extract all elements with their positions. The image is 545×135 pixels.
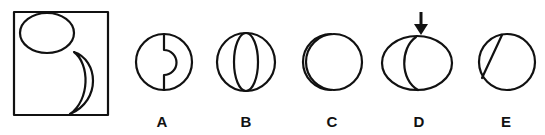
option-a-label: A [147, 113, 177, 130]
option-a-notched-divider [164, 34, 177, 90]
option-c-label: C [317, 113, 347, 130]
question-crescent [70, 52, 93, 114]
option-a-figure[interactable] [136, 34, 192, 90]
option-b-circle [217, 33, 275, 91]
option-b-inner-ellipse [234, 33, 258, 91]
question-panel [14, 12, 108, 115]
option-e-chord [482, 35, 502, 78]
question-frame [14, 12, 108, 115]
option-e-label: E [491, 113, 521, 130]
option-e-circle [479, 34, 535, 90]
option-e-figure[interactable] [479, 34, 535, 90]
option-d-ellipse [382, 36, 452, 90]
option-c-circle [306, 34, 362, 90]
option-d-inner-curve [404, 37, 418, 90]
option-c-figure[interactable] [303, 34, 362, 90]
option-b-figure[interactable] [217, 33, 275, 91]
option-d-label: D [404, 113, 434, 130]
option-d-figure[interactable] [382, 36, 452, 90]
option-c-crescent [303, 34, 331, 90]
question-ellipse [20, 13, 74, 53]
puzzle-diagram [0, 0, 545, 135]
option-b-label: B [231, 113, 261, 130]
down-arrow-icon [414, 12, 428, 35]
